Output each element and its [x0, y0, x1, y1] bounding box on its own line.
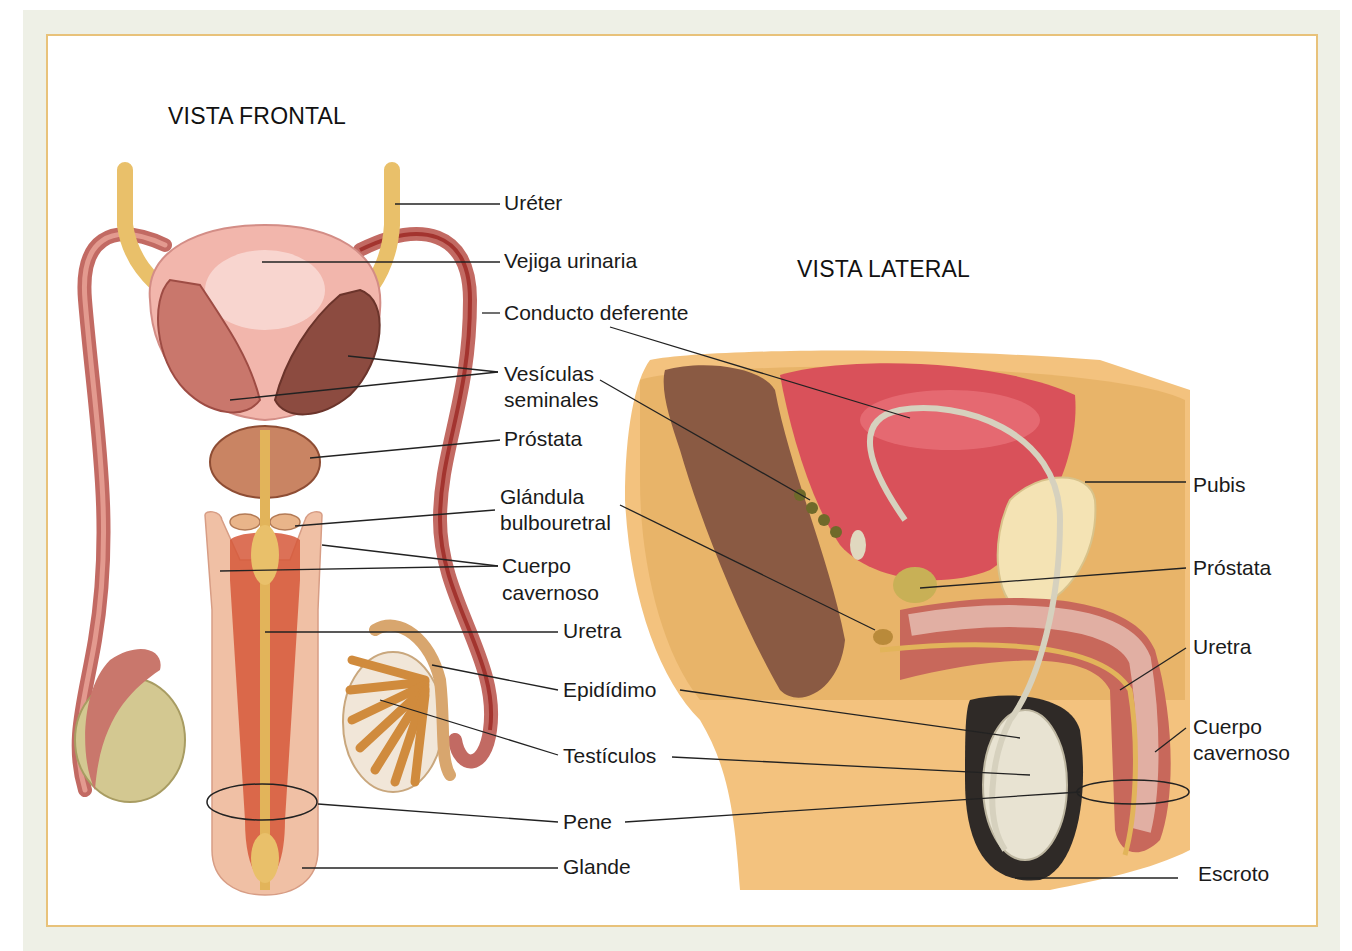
label-conducto-deferente: Conducto deferente	[504, 300, 688, 326]
label-cuerpo-cavernoso-lateral-2: cavernoso	[1193, 740, 1290, 766]
label-pene: Pene	[563, 809, 612, 835]
lateral-view-title: VISTA LATERAL	[797, 256, 970, 283]
label-glande: Glande	[563, 854, 631, 880]
label-cuerpo-cavernoso-lateral-1: Cuerpo	[1193, 714, 1262, 740]
frontal-view-illustration	[75, 170, 491, 895]
label-ureter: Uréter	[504, 190, 562, 216]
label-glandula-bulbouretral-2: bulbouretral	[500, 510, 611, 536]
label-uretra: Uretra	[563, 618, 621, 644]
frontal-view-title: VISTA FRONTAL	[168, 103, 346, 130]
label-escroto: Escroto	[1198, 861, 1269, 887]
lateral-view-illustration	[625, 351, 1190, 890]
label-cuerpo-cavernoso-2: cavernoso	[502, 580, 599, 606]
prostate-lateral	[893, 567, 937, 603]
label-uretra-lateral: Uretra	[1193, 634, 1251, 660]
label-cuerpo-cavernoso-1: Cuerpo	[502, 553, 571, 579]
anatomy-illustration	[0, 0, 1352, 951]
label-vesiculas-seminales-2: seminales	[504, 387, 599, 413]
label-glandula-bulbouretral-1: Glándula	[500, 484, 584, 510]
label-vesiculas-seminales-1: Vesículas	[504, 361, 594, 387]
label-vejiga-urinaria: Vejiga urinaria	[504, 248, 637, 274]
label-pubis: Pubis	[1193, 472, 1246, 498]
label-prostata-lateral: Próstata	[1193, 555, 1271, 581]
label-prostata: Próstata	[504, 426, 582, 452]
label-testiculos: Testículos	[563, 743, 656, 769]
label-epididimo: Epidídimo	[563, 677, 656, 703]
